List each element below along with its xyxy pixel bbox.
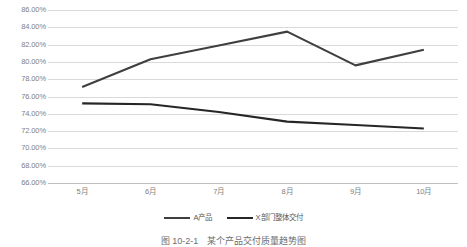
y-axis-tick-label: 84.00% [2,24,46,32]
plot-area [48,10,458,183]
y-axis-tick-label: 68.00% [2,162,46,170]
legend-label: A产品 [193,214,212,222]
x-axis-tick-label: 9月 [350,188,361,196]
x-axis-tick-label: 10月 [416,188,431,196]
figure-caption: 图 10-2-1 某个产品交付质量趋势图 [0,236,467,247]
series-layer [48,10,458,183]
y-axis-tick-label: 74.00% [2,110,46,118]
y-axis-tick-label: 78.00% [2,75,46,83]
chart-legend: A产品X部门整体交付 [0,214,467,222]
legend-label: X部门整体交付 [256,214,303,222]
x-axis-tick-label: 5月 [77,188,88,196]
x-axis-line [48,183,458,184]
y-axis-tick-label: 86.00% [2,6,46,14]
y-axis-tick-label: 66.00% [2,179,46,187]
chart-figure: 86.00%84.00%82.00%80.00%78.00%76.00%74.0… [0,0,467,247]
x-axis: 5月6月7月8月9月10月 [48,188,458,202]
y-axis-tick-label: 82.00% [2,41,46,49]
legend-entry[interactable]: X部门整体交付 [227,214,303,222]
legend-entry[interactable]: A产品 [164,214,212,222]
legend-line-swatch [227,217,253,219]
y-axis-tick-label: 70.00% [2,145,46,153]
x-axis-tick-label: 8月 [282,188,293,196]
y-axis-tick-label: 80.00% [2,58,46,66]
y-axis-tick-label: 72.00% [2,127,46,135]
y-axis: 86.00%84.00%82.00%80.00%78.00%76.00%74.0… [0,10,46,183]
series-line [82,103,424,128]
legend-line-swatch [164,217,190,219]
x-axis-tick-label: 7月 [213,188,224,196]
y-axis-tick-label: 76.00% [2,93,46,101]
x-axis-tick-label: 6月 [145,188,156,196]
series-line [82,32,424,87]
